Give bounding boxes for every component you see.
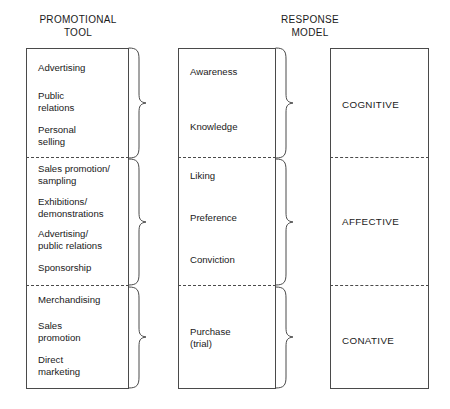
- response-model-item-liking: Liking: [190, 170, 278, 182]
- divider-response-type-row1: [330, 157, 429, 158]
- column-header-promotional-tool: PROMOTIONAL TOOL: [28, 14, 128, 39]
- column-header-response-model: RESPONSE MODEL: [260, 14, 360, 39]
- promotional-tool-item-public-relations: Public relations: [38, 90, 133, 114]
- divider-response-model-row2: [178, 285, 276, 286]
- divider-promotional-tool-row2: [26, 285, 129, 286]
- divider-promotional-tool-row1: [26, 157, 129, 158]
- response-type-label-conative: CONATIVE: [342, 335, 432, 347]
- response-model-item-conviction: Conviction: [190, 254, 278, 266]
- diagram-canvas: PROMOTIONAL TOOL RESPONSE MODEL Advertis…: [0, 0, 450, 409]
- response-model-item-purchase-trial: Purchase (trial): [190, 326, 278, 350]
- brace-response-model-affective: [275, 158, 295, 286]
- promotional-tool-item-exhibitions-demonstrations: Exhibitions/ demonstrations: [38, 196, 133, 220]
- brace-response-model-conative: [275, 286, 295, 389]
- divider-response-model-row1: [178, 157, 276, 158]
- promotional-tool-item-advertising: Advertising: [38, 62, 133, 74]
- brace-response-model-cognitive: [275, 47, 295, 159]
- response-type-label-affective: AFFECTIVE: [342, 216, 432, 228]
- promotional-tool-item-personal-selling: Personal selling: [38, 124, 133, 148]
- brace-promotional-tool-conative: [128, 286, 148, 389]
- promotional-tool-item-advertising-public-relations: Advertising/ public relations: [38, 228, 133, 252]
- response-model-item-awareness: Awareness: [190, 66, 278, 78]
- promotional-tool-item-sales-promotion: Sales promotion: [38, 320, 133, 344]
- response-model-item-knowledge: Knowledge: [190, 121, 278, 133]
- promotional-tool-item-merchandising: Merchandising: [38, 294, 133, 306]
- divider-response-type-row2: [330, 285, 429, 286]
- brace-promotional-tool-affective: [128, 158, 148, 286]
- promotional-tool-item-sponsorship: Sponsorship: [38, 262, 133, 274]
- promotional-tool-item-direct-marketing: Direct marketing: [38, 354, 133, 378]
- response-model-item-preference: Preference: [190, 212, 278, 224]
- promotional-tool-item-sales-promotion-sampling: Sales promotion/ sampling: [38, 163, 133, 187]
- response-type-label-cognitive: COGNITIVE: [342, 99, 432, 111]
- brace-promotional-tool-cognitive: [128, 47, 148, 159]
